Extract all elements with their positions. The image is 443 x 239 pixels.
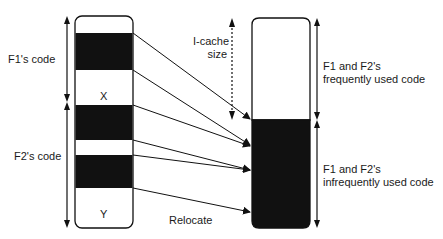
y-marker-label: Y [100,208,107,221]
f1-range-arrow [64,16,70,102]
f1-code-label: F1's code [8,53,55,66]
infrequent-range-arrow [314,120,320,228]
right-cache-block [252,18,310,228]
infrequent-label-line1: F1 and F2's [323,163,381,176]
relocate-arrows [133,33,250,212]
relocate-label: Relocate [169,214,212,227]
icache-label-line2: size [193,48,227,61]
f2-hot-segment-2 [76,155,133,188]
icache-label-line1: I-cache [193,35,227,48]
f2-hot-segment-1 [76,105,133,140]
x-marker-label: X [100,90,107,103]
frequent-label-line1: F1 and F2's [323,60,381,73]
f2-range-arrow [64,102,70,228]
f2-code-label: F2's code [14,150,61,163]
frequent-range-arrow [314,18,320,120]
left-code-block [75,16,133,228]
infrequent-label-line2: infrequently used code [323,176,434,189]
frequent-label-line2: frequently used code [323,73,425,86]
f1-hot-segment-1 [76,33,133,70]
